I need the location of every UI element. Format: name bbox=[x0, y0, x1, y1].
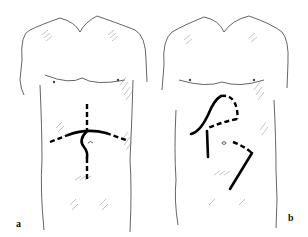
incision-transverse-dashed bbox=[208, 119, 237, 128]
figure-panel-a: a bbox=[0, 0, 154, 237]
incision-transverse-left bbox=[50, 135, 68, 142]
torso-illustration-a bbox=[0, 0, 154, 237]
figure-panel-b: b bbox=[154, 0, 308, 237]
umbilicus bbox=[222, 142, 226, 145]
incision-oblique-solid bbox=[230, 153, 252, 189]
incision-transverse-right bbox=[106, 133, 126, 140]
incision-subcostal-dashed bbox=[221, 96, 238, 119]
torso-illustration-b bbox=[154, 0, 308, 237]
incision-subcostal-solid bbox=[191, 96, 221, 134]
incision-oblique-dashed bbox=[233, 142, 252, 153]
incision-paramedian bbox=[207, 131, 208, 157]
umbilicus bbox=[88, 142, 93, 144]
panel-label-a: a bbox=[16, 218, 21, 229]
panel-label-b: b bbox=[288, 212, 294, 223]
incision-periumbilical bbox=[82, 131, 88, 158]
